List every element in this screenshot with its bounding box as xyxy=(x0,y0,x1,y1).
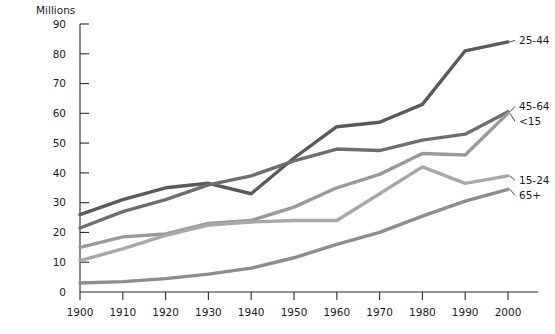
series-leader-15-24 xyxy=(510,176,515,181)
y-tick-label-20: 20 xyxy=(53,226,66,238)
y-tick-label-0: 0 xyxy=(59,286,66,298)
line-chart: Millions01020304050607080901900191019201… xyxy=(0,0,555,334)
series-line-15-24[interactable] xyxy=(80,167,508,261)
x-tick-label-1970: 1970 xyxy=(366,306,393,318)
y-tick-label-50: 50 xyxy=(53,137,66,149)
y-tick-label-80: 80 xyxy=(53,48,66,60)
series-label-25-44: 25-44 xyxy=(519,34,550,46)
series-line-<15[interactable] xyxy=(80,113,508,247)
series-leader-<15 xyxy=(510,113,515,121)
x-tick-label-1980: 1980 xyxy=(409,306,436,318)
y-axis-title: Millions xyxy=(36,4,75,16)
y-tick-label-60: 60 xyxy=(53,107,66,119)
y-tick-label-30: 30 xyxy=(53,196,66,208)
y-tick-label-40: 40 xyxy=(53,167,66,179)
series-line-25-44[interactable] xyxy=(80,42,508,215)
x-tick-label-1990: 1990 xyxy=(452,306,479,318)
series-leader-25-44 xyxy=(510,40,515,41)
y-tick-label-90: 90 xyxy=(53,18,66,30)
y-tick-label-10: 10 xyxy=(53,256,66,268)
x-tick-label-1950: 1950 xyxy=(281,306,308,318)
x-tick-label-1930: 1930 xyxy=(195,306,222,318)
series-label-65+: 65+ xyxy=(519,189,541,201)
x-tick-label-1900: 1900 xyxy=(67,306,94,318)
y-tick-label-70: 70 xyxy=(53,77,66,89)
series-leader-45-64 xyxy=(510,106,515,111)
x-tick-label-1940: 1940 xyxy=(238,306,265,318)
series-line-45-64[interactable] xyxy=(80,112,508,228)
series-label-15-24: 15-24 xyxy=(519,174,550,186)
x-tick-label-1960: 1960 xyxy=(323,306,350,318)
series-leader-65+ xyxy=(510,189,515,195)
series-label-45-64: 45-64 xyxy=(519,100,550,112)
x-tick-label-2000: 2000 xyxy=(495,306,522,318)
x-tick-label-1910: 1910 xyxy=(109,306,136,318)
series-label-<15: <15 xyxy=(519,115,541,127)
chart-page: Millions01020304050607080901900191019201… xyxy=(0,0,555,334)
x-tick-label-1920: 1920 xyxy=(152,306,179,318)
